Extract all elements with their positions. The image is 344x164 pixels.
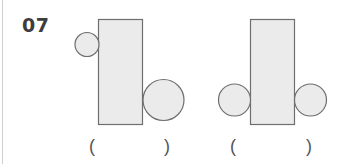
figure-2-right-circle	[295, 84, 327, 116]
close-paren: )	[164, 136, 170, 157]
figure-1-rectangle	[99, 20, 143, 125]
figure-2	[219, 20, 327, 125]
figure-2-left-circle	[219, 84, 251, 116]
figures-canvas	[0, 0, 344, 164]
open-paren: (	[230, 136, 236, 157]
figure-2-rectangle	[251, 20, 295, 125]
open-paren: (	[89, 136, 95, 157]
figure-1-small-circle	[75, 33, 99, 57]
figure-1	[75, 20, 184, 125]
close-paren: )	[306, 136, 312, 157]
figure-1-large-circle	[143, 80, 184, 121]
